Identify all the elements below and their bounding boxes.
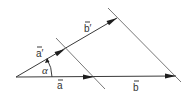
horizontal-ray — [16, 76, 176, 77]
label-a-prime: a′ — [36, 48, 44, 59]
parallel-line-long — [108, 8, 181, 82]
label-b: b — [133, 82, 139, 93]
label-a: a — [57, 80, 63, 91]
vector-b-prime-arrowhead — [107, 18, 118, 25]
vector-b-arrowhead — [165, 74, 176, 79]
label-alpha: α — [42, 64, 48, 76]
intercept-theorem-diagram: a′ b′ α a b — [0, 0, 193, 97]
upper-ray — [16, 18, 117, 77]
parallel-line-short — [56, 38, 105, 89]
vector-a-prime-arrowhead — [55, 49, 66, 56]
label-b-prime: b′ — [84, 23, 92, 34]
vector-a-arrowhead — [83, 75, 94, 80]
